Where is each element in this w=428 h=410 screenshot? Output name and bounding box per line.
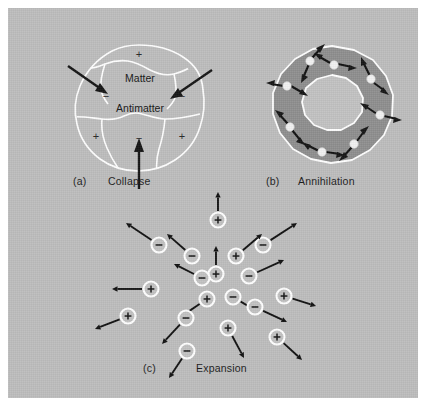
region-label-antimatter: Antimatter	[116, 102, 164, 114]
figure-root: + − − + − + Matter Antimatter	[0, 0, 428, 410]
panel-c-expansion	[88, 198, 348, 388]
region-label-matter: Matter	[125, 72, 155, 84]
annihilation-dot	[376, 111, 384, 119]
velocity-arrow-shaft	[171, 238, 185, 250]
expansion-particle	[270, 330, 303, 361]
expansion-particle	[256, 223, 298, 253]
velocity-arrow-shaft	[179, 266, 194, 274]
panel-a-caption: Collapse	[108, 175, 150, 187]
annihilation-dot	[286, 123, 294, 131]
velocity-arrow-head	[213, 246, 218, 252]
velocity-arrow-shaft	[263, 311, 282, 320]
expansion-particle	[126, 223, 167, 253]
expansion-particle	[174, 264, 210, 286]
velocity-arrow-shaft	[232, 336, 241, 353]
velocity-arrow-shaft	[293, 299, 311, 305]
velocity-arrow-head	[310, 302, 316, 307]
velocity-arrow-shaft	[100, 319, 120, 327]
collapse-arrow-left	[68, 66, 108, 94]
annihilation-dot	[330, 61, 338, 69]
expansion-particle	[221, 321, 245, 359]
charge-sign-positive-top: +	[136, 48, 142, 60]
expansion-particle	[209, 246, 224, 282]
velocity-arrow-shaft	[131, 226, 152, 240]
velocity-arrow-head	[112, 286, 118, 291]
expansion-particle	[95, 309, 136, 330]
expansion-particle	[211, 192, 226, 228]
velocity-arrow-shaft	[166, 325, 180, 340]
annihilation-dot	[306, 57, 314, 65]
expansion-particle	[112, 282, 159, 297]
panel-c-caption: Expansion	[196, 362, 247, 374]
annihilation-dot	[318, 148, 326, 156]
panel-b-label: (b)	[266, 175, 279, 187]
collapse-arrows	[68, 66, 212, 189]
figure-background-panel: + − − + − + Matter Antimatter	[8, 8, 418, 398]
annihilation-dot	[367, 75, 375, 83]
expansion-particle	[167, 234, 200, 264]
annihilation-dot	[283, 82, 291, 90]
charge-sign-positive-lower-right: +	[179, 130, 185, 142]
charge-sign-positive-lower-left: +	[93, 130, 99, 142]
velocity-arrow-shaft	[271, 226, 293, 240]
expansion-particle	[242, 260, 285, 284]
velocity-arrow-shaft	[172, 358, 182, 373]
panel-b-caption: Annihilation	[298, 175, 355, 187]
panel-a-label: (a)	[73, 175, 86, 187]
expansion-particle	[169, 344, 195, 379]
charge-signs: + − − + − +	[93, 48, 185, 144]
expansion-particle	[277, 289, 317, 307]
velocity-arrow-shaft	[257, 262, 279, 272]
panel-c-label: (c)	[143, 362, 156, 374]
panel-c-diagram	[88, 198, 348, 388]
velocity-arrow-shaft	[284, 343, 298, 356]
annihilation-dot	[350, 140, 358, 148]
expansion-particle	[162, 311, 194, 345]
